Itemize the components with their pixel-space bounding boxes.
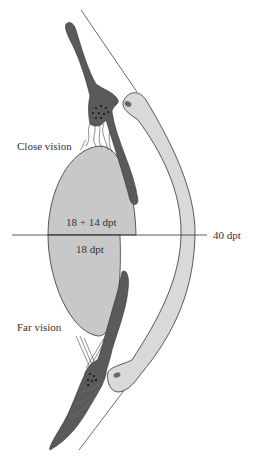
cornea-power-label: 40 dpt: [213, 229, 241, 241]
far-vision-label: Far vision: [17, 321, 62, 333]
close-vision-label: Close vision: [17, 140, 72, 152]
accommodation-diagram: Close vision Far vision 18 + 14 dpt 18 d…: [0, 0, 255, 459]
upper-lens-power-label: 18 + 14 dpt: [66, 216, 117, 228]
lower-lens-power-label: 18 dpt: [76, 243, 104, 255]
